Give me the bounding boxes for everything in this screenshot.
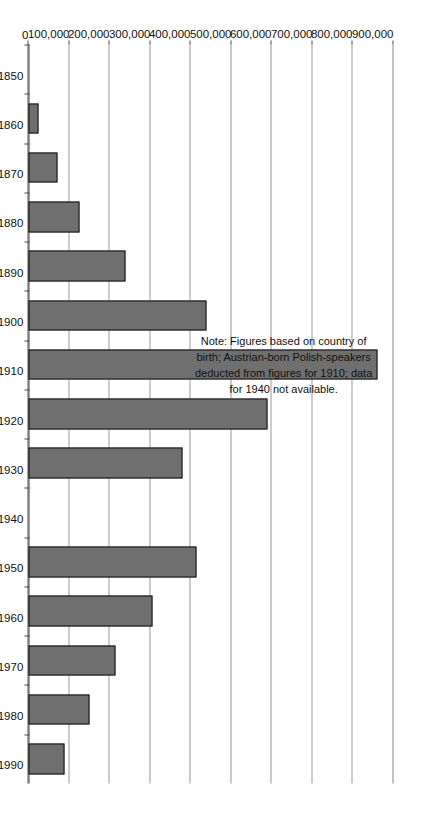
- category-tick-1890: [24, 241, 29, 242]
- category-tick-1980: [24, 684, 29, 685]
- value-tick-mark: [351, 40, 352, 44]
- category-label-1870: 1870: [0, 167, 23, 179]
- category-label-1850: 1850: [0, 69, 23, 81]
- category-label-1990: 1990: [0, 758, 23, 770]
- category-tick-1950: [24, 537, 29, 538]
- category-tick-1940: [24, 487, 29, 488]
- category-label-1880: 1880: [0, 216, 23, 228]
- value-tick-mark: [270, 40, 271, 44]
- value-tick-mark: [149, 40, 150, 44]
- bar-1930: [28, 447, 182, 478]
- bar-1900: [28, 300, 206, 331]
- bar-1880: [28, 201, 79, 232]
- plot-area: 900,000800,000700,000600,000500,000400,0…: [28, 44, 393, 783]
- category-tick-1960: [24, 586, 29, 587]
- value-tick-label: 300,000: [108, 28, 150, 40]
- bar-1870: [28, 152, 57, 183]
- category-tick-1920: [24, 389, 29, 390]
- category-tick-1870: [24, 143, 29, 144]
- bar-1970: [28, 645, 115, 676]
- gridline-900000: [392, 44, 393, 783]
- category-label-1860: 1860: [0, 118, 23, 130]
- category-tick-1880: [24, 192, 29, 193]
- category-tick-1970: [24, 635, 29, 636]
- category-label-1920: 1920: [0, 414, 23, 426]
- category-tick-1930: [24, 438, 29, 439]
- category-label-1980: 1980: [0, 709, 23, 721]
- bar-1950: [28, 546, 196, 577]
- value-tick-mark: [108, 40, 109, 44]
- category-label-1890: 1890: [0, 266, 23, 278]
- category-label-1910: 1910: [0, 364, 23, 376]
- value-tick-label: 600,000: [230, 28, 272, 40]
- value-tick-mark: [392, 40, 393, 44]
- bar-1980: [28, 694, 89, 725]
- category-tick-1850: [24, 44, 29, 45]
- category-tick-1910: [24, 340, 29, 341]
- category-label-1970: 1970: [0, 660, 23, 672]
- category-label-1900: 1900: [0, 315, 23, 327]
- category-label-1930: 1930: [0, 463, 23, 475]
- chart-note-line-1: Note: Figures based on country of: [170, 333, 396, 349]
- chart-note-line-2: birth; Austrian-born Polish-speakers: [170, 349, 396, 365]
- category-label-1960: 1960: [0, 611, 23, 623]
- value-tick-label: 400,000: [149, 28, 191, 40]
- bar-1890: [28, 250, 125, 281]
- value-tick-label: 500,000: [189, 28, 231, 40]
- bar-1990: [28, 743, 65, 774]
- value-tick-label: 0: [22, 28, 28, 40]
- chart-note-line-3: deducted from figures for 1910; data: [170, 365, 396, 381]
- gridline-800000: [351, 44, 352, 783]
- gridline-700000: [311, 44, 312, 783]
- category-label-1950: 1950: [0, 561, 23, 573]
- value-tick-mark: [230, 40, 231, 44]
- bar-1860: [28, 103, 38, 134]
- category-label-1940: 1940: [0, 512, 23, 524]
- value-tick-label: 100,000: [27, 28, 69, 40]
- category-tick-1900: [24, 290, 29, 291]
- chart-note: Note: Figures based on country of birth;…: [170, 333, 396, 397]
- value-tick-mark: [68, 40, 69, 44]
- value-tick-label: 700,000: [270, 28, 312, 40]
- bar-1920: [28, 398, 267, 429]
- chart-note-line-4: for 1940 not available.: [170, 381, 396, 397]
- value-tick-mark: [311, 40, 312, 44]
- value-tick-mark: [189, 40, 190, 44]
- value-tick-label: 900,000: [351, 28, 393, 40]
- bar-1960: [28, 595, 152, 626]
- gridline-600000: [270, 44, 271, 783]
- value-tick-label: 800,000: [311, 28, 353, 40]
- bar-chart: 900,000800,000700,000600,000500,000400,0…: [0, 0, 439, 829]
- category-tick-1990: [24, 734, 29, 735]
- value-tick-label: 200,000: [68, 28, 110, 40]
- category-tick-1860: [24, 93, 29, 94]
